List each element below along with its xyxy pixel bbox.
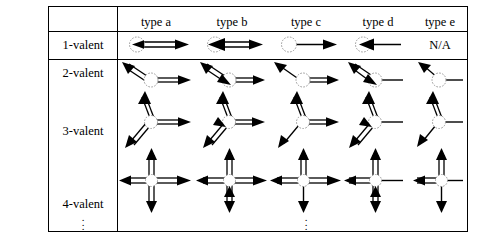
- vertex-circle: [370, 175, 382, 187]
- glyph-1valent-d: [343, 33, 413, 57]
- arrowhead-out-left: [413, 176, 425, 186]
- row-header-1-valent: 1-valent: [49, 38, 117, 52]
- arrowhead-out-left: [270, 176, 282, 186]
- column-header-type-e: type e: [413, 15, 467, 29]
- arrowhead-out-right: [178, 75, 191, 85]
- column-header-label: type d: [363, 15, 394, 29]
- cell-4valent-type-b: [195, 147, 269, 215]
- glyph-1valent-c: [269, 33, 343, 57]
- glyph-3valent-b: [195, 89, 269, 151]
- arrowhead-out-up: [146, 148, 157, 160]
- classification-table: type a type b type c type d type e 1-val…: [48, 6, 468, 232]
- glyph-3valent-e: [413, 89, 467, 151]
- arrowhead-out-down: [146, 201, 157, 213]
- vertex-circle: [145, 116, 158, 129]
- column-header-label: type a: [141, 15, 171, 29]
- arrowhead-out-upleft: [274, 62, 287, 73]
- arrowhead-out-left: [196, 176, 208, 186]
- table-row-divider-1: [49, 59, 467, 60]
- glyph-2valent-c: [269, 61, 343, 91]
- arrowhead-out-right: [253, 75, 265, 85]
- cell-1valent-type-b: [195, 33, 269, 57]
- cell-3valent-type-e: [413, 89, 467, 151]
- cell-2valent-type-c: [269, 61, 343, 91]
- arrowhead-out-up: [362, 91, 375, 104]
- arrowhead-out-right: [177, 176, 191, 186]
- column-header-type-c: type c: [269, 15, 343, 29]
- row-header-label: 2-valent: [63, 66, 104, 80]
- row-header-label: 3-valent: [63, 124, 104, 138]
- row-header-4-valent: 4-valent: [49, 197, 117, 211]
- na-label: N/A: [429, 38, 451, 52]
- cell-2valent-type-a: [117, 61, 195, 91]
- arrowhead-in-up: [224, 186, 235, 197]
- cell-2valent-type-e: [413, 61, 467, 91]
- column-header-label: type b: [217, 15, 248, 29]
- vertex-circle: [436, 175, 448, 187]
- arrowhead-out-up: [426, 91, 439, 104]
- arrowhead-out-left: [344, 176, 356, 186]
- vertex-circle: [144, 73, 158, 87]
- glyph-4valent-a: [117, 147, 195, 215]
- cell-1valent-type-c: [269, 33, 343, 57]
- arrowhead-out-up: [224, 148, 235, 160]
- row-header-label: 1-valent: [63, 38, 104, 52]
- vertex-circle: [297, 116, 310, 129]
- arrowhead-out-right: [249, 40, 263, 50]
- arrowhead-out-right: [323, 40, 337, 50]
- glyph-4valent-d: [343, 147, 413, 215]
- glyph-2valent-b: [195, 61, 269, 91]
- arrowhead-in-up: [370, 186, 381, 197]
- arrowhead-out-right: [175, 40, 189, 50]
- cell-1valent-type-d: [343, 33, 413, 57]
- glyph-4valent-b: [195, 147, 269, 215]
- arrowhead-out-right: [327, 75, 339, 85]
- vertex-circle: [432, 73, 446, 87]
- arrowhead-out-upleft: [418, 62, 431, 73]
- cell-1valent-type-a: [117, 33, 195, 57]
- vertex-circle: [433, 116, 446, 129]
- arrowhead-out-upleft: [348, 62, 361, 74]
- cell-4valent-type-e: [413, 147, 467, 215]
- glyph-1valent-a: [117, 33, 195, 57]
- arrowhead-out-left: [119, 176, 131, 186]
- arrowhead-out-right: [326, 117, 339, 127]
- cell-2valent-type-b: [195, 61, 269, 91]
- vertex-circle: [224, 175, 236, 187]
- cell-2valent-type-d: [343, 61, 413, 91]
- row-header-label: 4-valent: [63, 197, 104, 211]
- glyph-3valent-a: [117, 89, 195, 151]
- glyph-3valent-d: [343, 89, 413, 151]
- column-header-label: type c: [291, 15, 321, 29]
- column-header-label: type e: [425, 15, 455, 29]
- cell-4valent-type-a: [117, 147, 195, 215]
- arrowhead-out-right: [178, 117, 191, 127]
- arrowhead-out-down: [436, 201, 447, 213]
- figure-root: type a type b type c type d type e 1-val…: [0, 0, 478, 248]
- arrowhead-out-up: [370, 148, 381, 160]
- arrowhead-out-right: [252, 117, 265, 127]
- cell-3valent-type-d: [343, 89, 413, 151]
- cell-3valent-type-a: [117, 89, 195, 151]
- arrowhead-out-up: [138, 91, 151, 104]
- column-header-type-d: type d: [343, 15, 413, 29]
- arrowhead-out-right: [327, 176, 341, 186]
- cell-4valent-type-d: [343, 147, 413, 215]
- cell-1valent-type-e-na: N/A: [413, 38, 467, 53]
- column-continuation-ellipsis: ...: [269, 215, 343, 229]
- row-continuation-ellipsis: ...: [49, 215, 117, 229]
- glyph-2valent-e: [413, 61, 467, 91]
- arrowhead-out-up: [290, 91, 303, 104]
- row-header-2-valent: 2-valent: [49, 66, 117, 80]
- glyph-4valent-c: [269, 147, 343, 215]
- cell-3valent-type-b: [195, 89, 269, 151]
- arrowhead-out-down: [224, 201, 235, 213]
- vertex-circle: [296, 73, 310, 87]
- glyph-2valent-a: [117, 61, 195, 91]
- glyph-4valent-e: [413, 147, 467, 215]
- glyph-2valent-d: [343, 61, 413, 91]
- glyph-1valent-b: [195, 33, 269, 57]
- column-header-type-b: type b: [195, 15, 269, 29]
- arrowhead-out-up: [298, 148, 309, 160]
- cell-3valent-type-c: [269, 89, 343, 151]
